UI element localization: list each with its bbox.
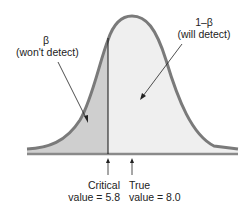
beta-symbol: β	[16, 34, 76, 46]
true-value-label: True value = 8.0	[129, 179, 189, 203]
one-minus-beta-sublabel: (will detect)	[170, 28, 238, 40]
true-label-line2: value = 8.0	[129, 191, 189, 203]
true-arrow-icon	[130, 158, 134, 175]
critical-label-line2: value = 5.8	[60, 191, 120, 203]
critical-value-label: Critical value = 5.8	[60, 179, 120, 203]
critical-arrow-icon	[106, 158, 110, 175]
one-minus-beta-symbol: 1–β	[170, 16, 238, 28]
critical-label-line1: Critical	[60, 179, 120, 191]
beta-label: β (won't detect)	[16, 34, 76, 58]
beta-sublabel: (won't detect)	[16, 46, 76, 58]
true-label-line1: True	[129, 179, 189, 191]
beta-pointer-arrow	[58, 62, 88, 123]
one-minus-beta-label: 1–β (will detect)	[170, 16, 238, 40]
